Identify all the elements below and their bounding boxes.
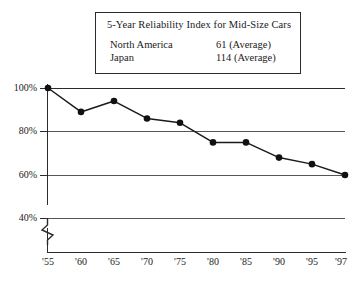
reliability-index-chart: 5-Year Reliability Index for Mid-Size Ca… [0, 0, 363, 283]
xtick-label-60: '60 [75, 256, 87, 267]
xtick-label-97: '97 [335, 256, 347, 267]
xtick-label-90: '90 [273, 256, 285, 267]
gridline-80 [47, 131, 345, 132]
legend-series-value: 114 (Average) [216, 52, 276, 63]
data-point [309, 161, 316, 168]
xtick-label-65: '65 [108, 256, 120, 267]
ytick-label-60: 60% [0, 169, 37, 180]
axis-break-icon [39, 219, 59, 245]
ytick-label-40: 40% [0, 212, 37, 223]
legend-rows: North America 61 (Average) Japan 114 (Av… [110, 39, 292, 65]
chart-title: 5-Year Reliability Index for Mid-Size Ca… [96, 19, 302, 30]
chart-legend-box: 5-Year Reliability Index for Mid-Size Ca… [95, 12, 301, 74]
gridline-60 [47, 175, 345, 176]
data-point [78, 109, 85, 116]
legend-row: Japan 114 (Average) [110, 52, 292, 65]
data-point [276, 154, 283, 161]
xtick-label-95: '95 [306, 256, 318, 267]
data-point [243, 139, 250, 146]
legend-series-name: Japan [110, 52, 134, 63]
legend-row: North America 61 (Average) [110, 39, 292, 52]
y-axis-line-upper [47, 84, 48, 205]
data-point [210, 139, 217, 146]
ytick-label-80: 80% [0, 125, 37, 136]
ytick-label-100: 100% [0, 82, 37, 93]
data-point [144, 115, 151, 122]
data-point [177, 120, 184, 127]
data-point [111, 98, 118, 105]
x-axis-line [47, 252, 346, 253]
xtick-label-80: '80 [207, 256, 219, 267]
gridline-40 [47, 218, 345, 219]
legend-series-name: North America [110, 39, 173, 50]
gridline-100 [47, 88, 345, 89]
xtick-label-75: '75 [174, 256, 186, 267]
xtick-label-55: '55 [42, 256, 54, 267]
xtick-label-70: '70 [141, 256, 153, 267]
xtick-label-85: '85 [240, 256, 252, 267]
legend-series-value: 61 (Average) [216, 39, 271, 50]
